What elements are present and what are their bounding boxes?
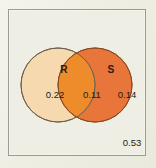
set-s-label: S — [101, 65, 121, 75]
set-r-label: R — [54, 65, 74, 75]
figure-frame: R S 0.22 0.11 0.14 0.53 — [8, 9, 146, 156]
set-r-only-value: 0.22 — [39, 90, 71, 100]
set-s-only-value: 0.14 — [111, 90, 143, 100]
venn-diagram-figure: R S 0.22 0.11 0.14 0.53 — [0, 0, 156, 168]
outside-region-value: 0.53 — [117, 138, 147, 148]
venn-circles-graphic — [9, 10, 145, 155]
set-intersection-value: 0.11 — [76, 90, 108, 100]
venn-stage: R S 0.22 0.11 0.14 0.53 — [9, 10, 145, 155]
